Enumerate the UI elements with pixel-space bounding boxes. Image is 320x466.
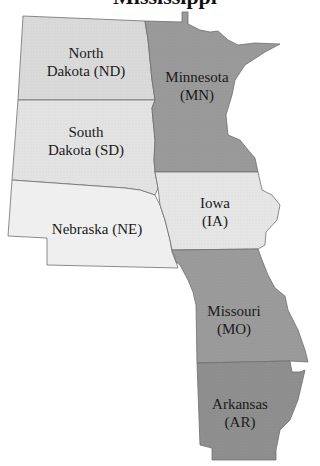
state-label-ne: Nebraska (NE) <box>52 221 142 238</box>
state-label-ia-line1: Iowa <box>200 195 230 211</box>
state-label-nd-line2: Dakota (ND) <box>47 63 126 80</box>
state-label-ar-line2: (AR) <box>225 414 256 431</box>
states-map: Mississippi North Dakota (ND) South Dako… <box>0 0 320 466</box>
state-south-dakota[interactable]: South Dakota (SD) <box>12 100 158 195</box>
state-iowa[interactable]: Iowa (IA) <box>155 172 280 250</box>
state-label-ar-line1: Arkansas <box>212 396 268 412</box>
map-title: Mississippi <box>113 0 217 9</box>
state-label-sd-line1: South <box>68 124 104 140</box>
state-label-ia-line2: (IA) <box>202 213 228 230</box>
state-label-mn-line2: (MN) <box>180 87 214 104</box>
state-arkansas[interactable]: Arkansas (AR) <box>197 361 305 460</box>
state-label-mn-line1: Minnesota <box>165 69 229 85</box>
state-label-mo-line1: Missouri <box>207 303 260 319</box>
state-label-sd-line2: Dakota (SD) <box>48 142 124 159</box>
state-minnesota[interactable]: Minnesota (MN) <box>145 12 280 172</box>
state-label-mo-line2: (MO) <box>217 321 251 338</box>
state-missouri[interactable]: Missouri (MO) <box>172 249 308 363</box>
state-label-nd-line1: North <box>69 45 104 61</box>
state-north-dakota[interactable]: North Dakota (ND) <box>18 16 155 100</box>
